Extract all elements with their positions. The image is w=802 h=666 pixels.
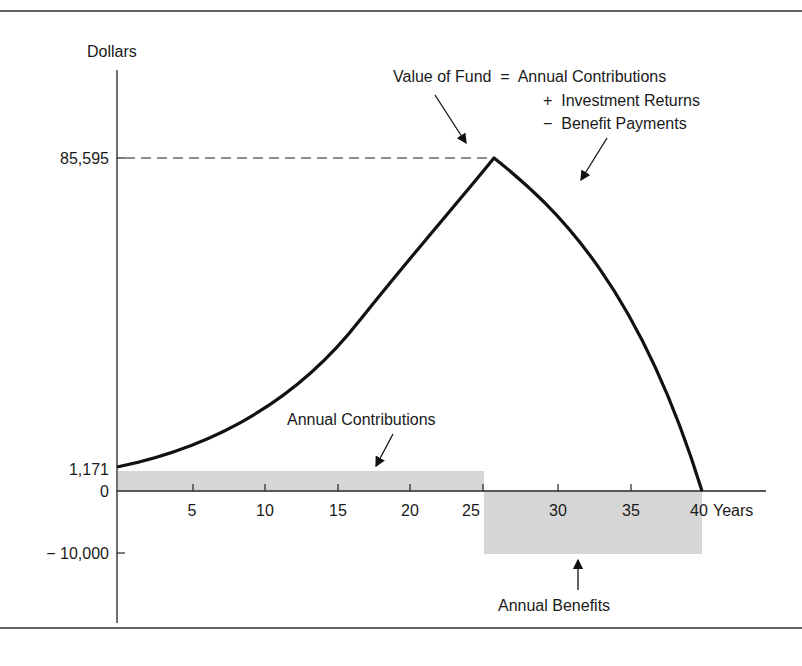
x-tick-15: 15	[329, 502, 347, 519]
equation-line-2: + Investment Returns	[543, 92, 700, 109]
x-axis-label: Years	[713, 502, 753, 519]
arrow-fund-right	[581, 138, 607, 180]
y-tick-1171: 1,171	[69, 461, 109, 478]
x-tick-5: 5	[188, 502, 197, 519]
arrow-fund-left	[435, 95, 466, 143]
x-tick-25: 25	[462, 502, 480, 519]
benefits-label: Annual Benefits	[498, 597, 610, 614]
chart: Dollars 85,595 1,171 0 − 10,000 5 10 15 …	[0, 0, 802, 666]
fund-value-curve	[117, 158, 702, 491]
contributions-region	[118, 471, 484, 490]
benefits-region	[484, 492, 702, 554]
y-tick-neg10000: − 10,000	[46, 545, 109, 562]
y-tick-0: 0	[100, 483, 109, 500]
x-tick-20: 20	[401, 502, 419, 519]
y-tick-85595: 85,595	[60, 150, 109, 167]
x-tick-35: 35	[622, 502, 640, 519]
y-axis-label: Dollars	[87, 43, 137, 60]
x-tick-40: 40	[690, 502, 708, 519]
equation-line-1: Value of Fund = Annual Contributions	[393, 68, 666, 85]
arrow-contributions	[376, 434, 393, 466]
x-tick-10: 10	[256, 502, 274, 519]
equation-line-3: − Benefit Payments	[543, 115, 687, 132]
contributions-label: Annual Contributions	[287, 411, 436, 428]
x-tick-30: 30	[549, 502, 567, 519]
